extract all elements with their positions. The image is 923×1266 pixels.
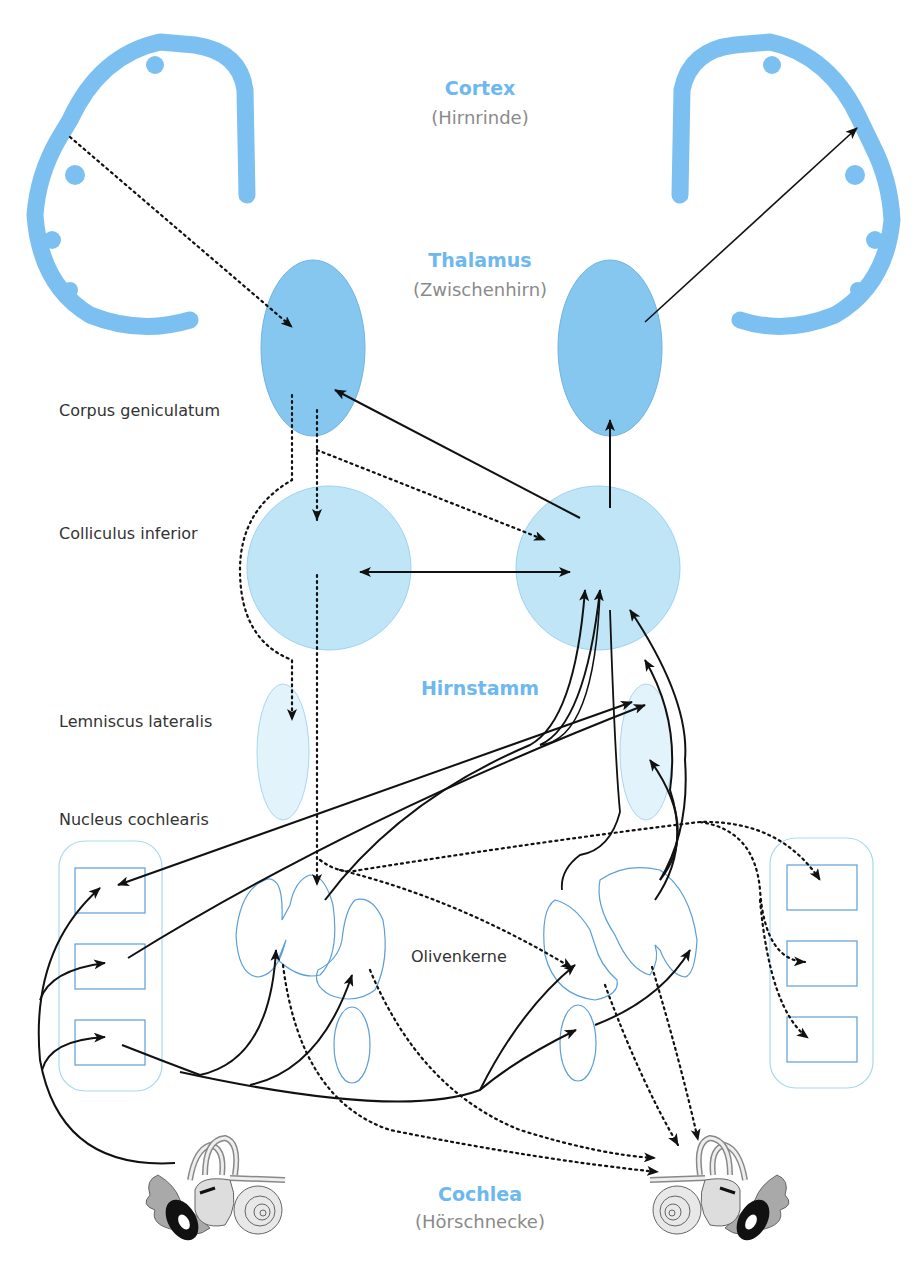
- thalamus-subtitle: (Zwischenhirn): [380, 279, 580, 300]
- olivary-nuclei-left: [236, 875, 385, 1083]
- thalamus-left: [261, 260, 365, 436]
- label-nucleus-cochlearis: Nucleus cochlearis: [59, 810, 209, 829]
- cortex-title: Cortex: [380, 77, 580, 99]
- cortex-left: [35, 42, 247, 326]
- cortex-subtitle: (Hirnrinde): [380, 107, 580, 128]
- lemniscus-lateralis-left: [257, 684, 309, 820]
- thalamus-title: Thalamus: [380, 249, 580, 271]
- hirnstamm-title: Hirnstamm: [380, 677, 580, 699]
- cortex-right: [680, 42, 892, 326]
- olivary-nuclei-right: [544, 868, 697, 1081]
- nucleus-cochlearis-left: [59, 841, 162, 1091]
- auditory-pathway-diagram: [0, 0, 923, 1266]
- label-corpus-geniculatum: Corpus geniculatum: [59, 401, 220, 420]
- inner-ear-icon-right: [650, 1138, 789, 1246]
- colliculus-inferior-left: [247, 486, 411, 650]
- cochlea-title: Cochlea: [380, 1183, 580, 1205]
- nucleus-cochlearis-right: [770, 838, 873, 1088]
- inner-ear-icon-left: [146, 1138, 285, 1246]
- label-olivenkerne: Olivenkerne: [411, 947, 507, 966]
- cochlea-subtitle: (Hörschnecke): [380, 1211, 580, 1232]
- label-colliculus-inferior: Colliculus inferior: [59, 524, 198, 543]
- label-lemniscus-lateralis: Lemniscus lateralis: [59, 712, 212, 731]
